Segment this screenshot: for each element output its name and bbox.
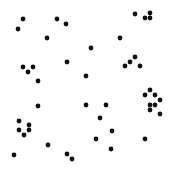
dot <box>70 157 75 162</box>
dot <box>46 143 51 148</box>
dot <box>148 108 153 113</box>
dot <box>36 79 41 84</box>
dot <box>45 36 50 41</box>
dot <box>148 103 153 108</box>
dot <box>17 119 22 124</box>
dot <box>27 123 32 128</box>
dot <box>84 103 89 108</box>
dot-field <box>0 0 178 179</box>
dot <box>16 27 21 32</box>
dot <box>94 137 99 142</box>
dot <box>123 64 128 69</box>
dot <box>133 12 138 17</box>
dot <box>153 103 158 108</box>
dot <box>153 93 158 98</box>
scatter-dots <box>0 0 178 179</box>
dot <box>143 137 148 142</box>
dot <box>148 88 153 93</box>
dot <box>133 55 138 60</box>
dot <box>26 70 31 75</box>
dot <box>55 17 60 22</box>
dot <box>21 65 26 70</box>
dot <box>138 64 143 69</box>
dot <box>148 11 153 16</box>
dot <box>84 74 89 79</box>
dot <box>158 98 163 103</box>
dot <box>64 22 69 27</box>
dot <box>104 103 109 108</box>
dot <box>27 128 32 133</box>
dot <box>31 65 36 70</box>
dot <box>128 60 133 65</box>
dot <box>143 93 148 98</box>
dot <box>109 147 114 152</box>
dot <box>21 17 26 22</box>
dot <box>98 116 103 121</box>
dot <box>143 16 148 21</box>
dot <box>36 104 41 109</box>
dot <box>118 36 123 41</box>
dot <box>65 152 70 157</box>
dot <box>89 46 94 51</box>
dot <box>12 153 17 158</box>
dot <box>17 128 22 133</box>
dot <box>148 16 153 21</box>
dot <box>158 112 163 117</box>
dot <box>65 60 70 65</box>
dot <box>22 133 27 138</box>
dot <box>110 129 115 134</box>
